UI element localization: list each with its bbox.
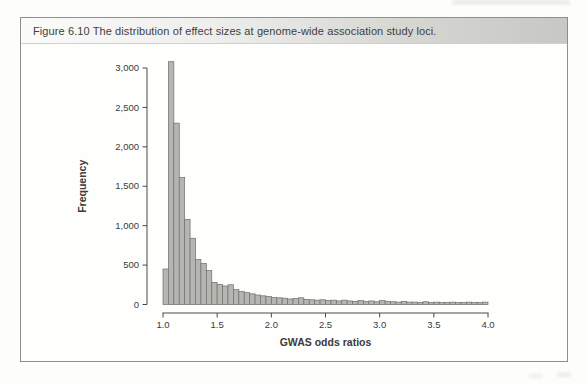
- histogram-bar: [250, 294, 255, 305]
- histogram-bar: [472, 303, 477, 305]
- histogram-bar: [206, 271, 211, 305]
- histogram-bar: [401, 301, 406, 304]
- histogram-bar: [418, 303, 423, 305]
- y-axis-title: Frequency: [76, 160, 88, 213]
- histogram-bar: [439, 303, 444, 305]
- x-tick-label: 1.5: [211, 319, 224, 330]
- histogram-bar: [277, 298, 282, 305]
- histogram-bar: [358, 301, 363, 305]
- histogram-bar: [201, 264, 206, 305]
- histogram-bar: [309, 300, 314, 305]
- x-tick-label: 2.5: [319, 319, 332, 330]
- histogram-bar: [374, 302, 379, 305]
- x-tick-label: 4.0: [481, 319, 494, 330]
- figure-caption-text: Figure 6.10 The distribution of effect s…: [33, 25, 437, 37]
- histogram-bar: [163, 269, 168, 304]
- histogram-bar: [196, 260, 201, 305]
- histogram-bar: [223, 286, 228, 305]
- histogram-bar: [477, 303, 482, 305]
- cropped-page-header-remnant: [452, 0, 570, 5]
- histogram-bar: [380, 301, 385, 305]
- histogram-bar: [331, 300, 336, 304]
- x-tick-label: 2.0: [265, 319, 278, 330]
- x-tick-label: 3.5: [427, 319, 440, 330]
- figure-panel: Figure 6.10 The distribution of effect s…: [20, 17, 568, 362]
- histogram-bar: [347, 301, 352, 305]
- y-tick-label: 2,000: [115, 141, 139, 152]
- x-axis-title: GWAS odds ratios: [280, 336, 372, 348]
- histogram-bar: [461, 303, 466, 305]
- x-tick-label: 3.0: [373, 319, 386, 330]
- histogram-chart: 05001,0001,5002,0002,5003,0001.01.52.02.…: [21, 44, 567, 361]
- histogram-bar: [271, 297, 276, 304]
- y-tick-label: 1,500: [115, 180, 139, 191]
- y-tick-label: 2,500: [115, 102, 139, 113]
- histogram-bar: [483, 302, 488, 304]
- histogram-bar: [168, 62, 173, 305]
- histogram-bar: [407, 302, 412, 304]
- histogram-bar: [320, 300, 325, 305]
- histogram-bar: [336, 301, 341, 305]
- page-smudge: [557, 372, 571, 377]
- histogram-bar: [174, 123, 179, 304]
- histogram-bar: [423, 302, 428, 305]
- histogram-bar: [304, 299, 309, 304]
- histogram-bar: [298, 298, 303, 305]
- histogram-bar: [255, 295, 260, 304]
- chart-area: 05001,0001,5002,0002,5003,0001.01.52.02.…: [21, 44, 567, 361]
- histogram-bar: [450, 302, 455, 304]
- histogram-bar: [315, 300, 320, 304]
- histogram-bar: [391, 302, 396, 305]
- x-tick-label: 1.0: [156, 319, 169, 330]
- histogram-bar: [282, 298, 287, 304]
- histogram-bar: [233, 290, 238, 305]
- histogram-bar: [396, 302, 401, 304]
- y-tick-label: 3,000: [115, 62, 139, 73]
- histogram-bar: [261, 296, 266, 305]
- page-smudge: [528, 374, 543, 378]
- histogram-bar: [228, 285, 233, 305]
- histogram-bar: [190, 238, 195, 304]
- histogram-bar: [385, 301, 390, 304]
- histogram-bar: [412, 302, 417, 304]
- histogram-bar: [179, 178, 184, 305]
- histogram-bar: [369, 301, 374, 305]
- histogram-bar: [212, 282, 217, 304]
- histogram-bar: [326, 301, 331, 305]
- histogram-bar: [244, 293, 249, 305]
- histogram-bar: [445, 303, 450, 305]
- histogram-bar: [342, 300, 347, 304]
- histogram-bar: [466, 302, 471, 304]
- y-tick-label: 0: [134, 299, 139, 310]
- histogram-bar: [293, 299, 298, 305]
- histogram-bar: [185, 219, 190, 304]
- y-tick-label: 1,000: [115, 220, 139, 231]
- histogram-bar: [217, 284, 222, 304]
- histogram-bar: [456, 303, 461, 305]
- y-tick-label: 500: [123, 259, 139, 270]
- histogram-bar: [428, 303, 433, 305]
- histogram-bar: [239, 291, 244, 304]
- figure-caption-bar: Figure 6.10 The distribution of effect s…: [21, 18, 567, 44]
- histogram-bar: [353, 301, 358, 304]
- histogram-bar: [266, 297, 271, 305]
- histogram-bar: [288, 299, 293, 305]
- histogram-bar: [434, 302, 439, 304]
- histogram-bar: [363, 301, 368, 304]
